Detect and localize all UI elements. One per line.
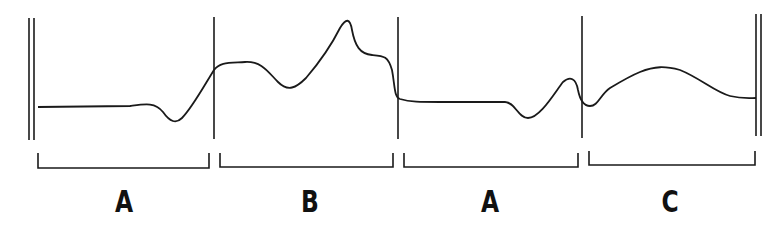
contour-line xyxy=(38,21,756,122)
section-bracket-a2 xyxy=(404,153,578,167)
section-label-c: C xyxy=(654,184,685,219)
section-label-a1: A xyxy=(108,184,139,219)
section-bracket-b xyxy=(220,153,393,167)
section-label-b: B xyxy=(294,184,325,219)
section-label-a2: A xyxy=(474,184,505,219)
section-bracket-a1 xyxy=(38,153,209,168)
section-bracket-c xyxy=(589,151,755,165)
